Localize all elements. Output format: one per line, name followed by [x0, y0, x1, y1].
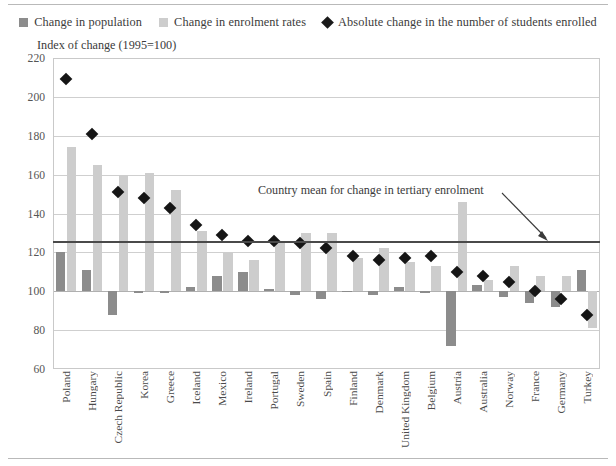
bar-enrolment-rate — [484, 280, 494, 292]
y-tick-140: 140 — [28, 207, 45, 220]
bar-enrolment-rate — [562, 276, 572, 292]
chart-legend: Change in population Change in enrolment… — [0, 13, 616, 31]
bar-population — [238, 272, 248, 291]
x-label-austria: Austria — [451, 371, 463, 405]
y-tick-180: 180 — [28, 129, 45, 142]
bar-enrolment-rate — [458, 202, 468, 291]
x-label-france: France — [529, 371, 541, 402]
chart-column — [157, 58, 183, 369]
bar-population — [316, 291, 326, 299]
bar-enrolment-rate — [275, 241, 285, 292]
chart-column — [392, 58, 418, 369]
legend-label-population: Change in population — [34, 15, 142, 30]
chart-column — [366, 58, 392, 369]
bar-population — [420, 291, 430, 293]
plot-area — [53, 58, 600, 369]
bar-population — [499, 291, 509, 297]
bar-population — [264, 289, 274, 291]
diamond-marker-icon — [321, 16, 334, 29]
x-label-australia: Australia — [477, 371, 489, 413]
y-axis-tick-labels: 6080100120140160180200220 — [0, 58, 50, 369]
x-label-finland: Finland — [347, 371, 359, 406]
legend-item-enrolment-rates: Change in enrolment rates — [159, 15, 306, 30]
chart-container: Change in population Change in enrolment… — [0, 0, 616, 466]
legend-label-enrolment-rates: Change in enrolment rates — [174, 15, 306, 30]
chart-column — [261, 58, 287, 369]
bar-enrolment-rate — [145, 173, 155, 292]
marker-absolute-change — [190, 219, 203, 232]
x-label-ireland: Ireland — [242, 371, 254, 403]
x-label-hungary: Hungary — [86, 371, 98, 411]
chart-column — [444, 58, 470, 369]
x-label-greece: Greece — [164, 371, 176, 403]
bars-and-markers-layer — [53, 58, 600, 369]
bar-population — [82, 270, 92, 291]
y-axis-title: Index of change (1995=100) — [37, 38, 176, 53]
y-tick-200: 200 — [28, 90, 45, 103]
chart-column — [53, 58, 79, 369]
y-tick-160: 160 — [28, 168, 45, 181]
x-label-czech-republic: Czech Republic — [112, 371, 124, 443]
x-label-portugal: Portugal — [268, 371, 280, 410]
y-tick-120: 120 — [28, 246, 45, 259]
marker-absolute-change — [60, 73, 73, 86]
bar-population — [56, 252, 66, 291]
bar-population — [134, 291, 144, 293]
bar-population — [212, 276, 222, 292]
bar-population — [472, 285, 482, 291]
chart-column — [548, 58, 574, 369]
bar-enrolment-rate — [93, 165, 103, 291]
x-axis-category-labels: PolandHungaryCzech RepublicKoreaGreeceIc… — [53, 371, 600, 463]
chart-column — [418, 58, 444, 369]
x-label-poland: Poland — [60, 371, 72, 403]
bar-enrolment-rate — [405, 262, 415, 291]
bar-enrolment-rate — [588, 291, 598, 328]
y-tick-100: 100 — [28, 285, 45, 298]
chart-column — [522, 58, 548, 369]
chart-column — [470, 58, 496, 369]
chart-column — [79, 58, 105, 369]
y-tick-220: 220 — [28, 52, 45, 65]
bar-population — [108, 291, 118, 314]
bar-population — [577, 270, 587, 291]
bar-enrolment-rate — [67, 147, 77, 291]
legend-item-population: Change in population — [19, 15, 142, 30]
marker-absolute-change — [424, 250, 437, 263]
bar-enrolment-rate — [353, 258, 363, 291]
chart-column — [574, 58, 600, 369]
square-swatch-icon — [159, 18, 168, 27]
x-label-mexico: Mexico — [216, 371, 228, 406]
legend-label-absolute-change: Absolute change in the number of student… — [338, 15, 597, 30]
x-label-korea: Korea — [138, 371, 150, 399]
y-tick-80: 80 — [33, 324, 45, 337]
x-label-turkey: Turkey — [581, 371, 593, 404]
bar-population — [446, 291, 456, 345]
square-swatch-icon — [19, 18, 28, 27]
chart-column — [313, 58, 339, 369]
chart-column — [496, 58, 522, 369]
x-label-belgium: Belgium — [425, 371, 437, 410]
x-label-norway: Norway — [503, 371, 515, 408]
legend-item-absolute-change: Absolute change in the number of student… — [323, 15, 597, 30]
chart-column — [209, 58, 235, 369]
chart-column — [183, 58, 209, 369]
bar-enrolment-rate — [249, 260, 259, 291]
y-tick-60: 60 — [33, 363, 45, 376]
marker-absolute-change — [86, 127, 99, 140]
mean-annotation-label: Country mean for change in tertiary enro… — [258, 183, 484, 198]
chart-column — [340, 58, 366, 369]
bar-population — [394, 287, 404, 291]
bar-enrolment-rate — [431, 266, 441, 291]
chart-column — [131, 58, 157, 369]
bar-enrolment-rate — [223, 252, 233, 291]
x-label-denmark: Denmark — [373, 371, 385, 413]
country-mean-line — [53, 241, 600, 243]
bar-population — [186, 287, 196, 291]
x-label-sweden: Sweden — [294, 371, 306, 407]
chart-column — [287, 58, 313, 369]
chart-column — [105, 58, 131, 369]
top-divider — [8, 4, 608, 5]
chart-column — [235, 58, 261, 369]
x-label-iceland: Iceland — [190, 371, 202, 405]
marker-absolute-change — [216, 229, 229, 242]
